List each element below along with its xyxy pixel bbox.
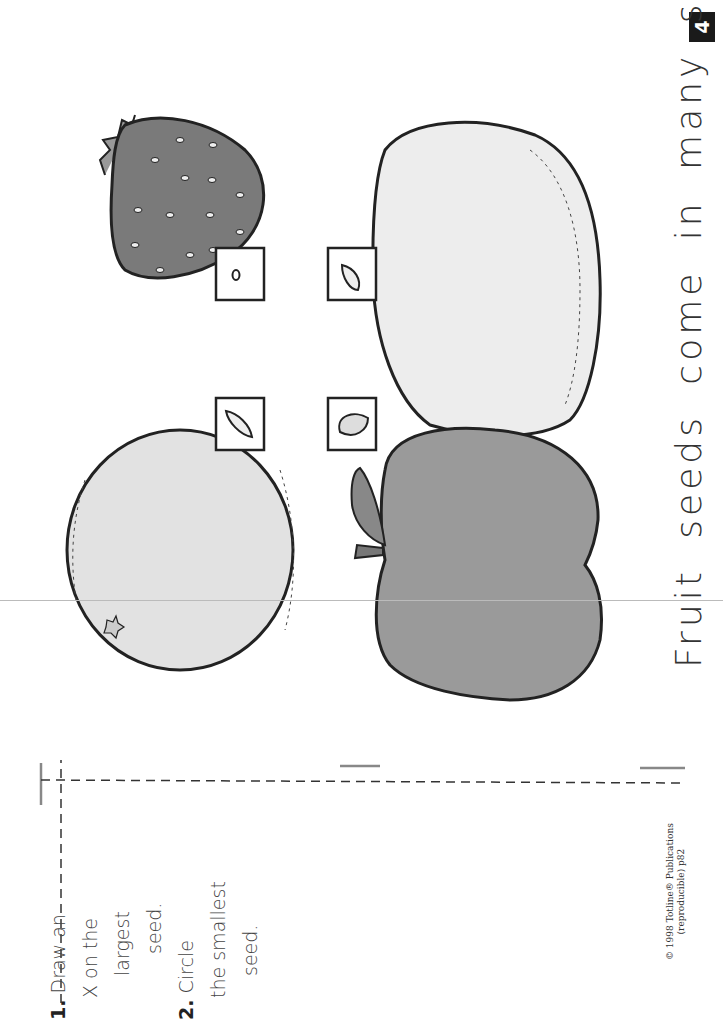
instructions: 1. Draw an X on the largest seed. 2. Cir… [42, 760, 266, 1020]
seed-box-apple[interactable] [328, 398, 376, 450]
orange-icon [67, 430, 294, 670]
seed-box-orange[interactable] [216, 398, 264, 450]
instruction-1: 1. Draw an X on the largest seed. [42, 760, 170, 1020]
apple-icon [352, 428, 602, 700]
seed-box-lemon[interactable] [328, 248, 376, 300]
lemon-icon [373, 122, 600, 435]
page-title: Fruit seeds come in many sizes. [668, 0, 709, 668]
seed-box-strawberry[interactable] [216, 248, 264, 300]
instruction-2: 2. Circle the smallest seed. [170, 760, 266, 1020]
scan-line [0, 600, 723, 601]
copyright: © 1998 Totline® Publications (reproducib… [665, 823, 687, 960]
